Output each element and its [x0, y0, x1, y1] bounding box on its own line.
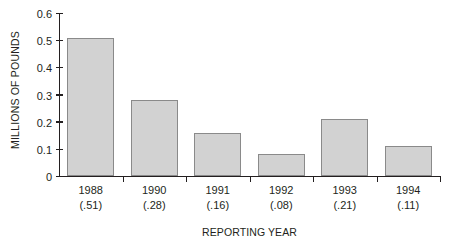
bar [385, 146, 432, 176]
bar [131, 100, 178, 175]
y-axis-tick-mark [56, 176, 64, 177]
y-axis-tick-label: 0.6 [37, 8, 52, 20]
x-axis-tick-mark [313, 176, 314, 182]
category-year: 1991 [186, 183, 250, 198]
category-label: 1991(.16) [186, 183, 250, 213]
bar [258, 154, 305, 176]
category-label: 1993(.21) [313, 183, 377, 213]
category-year: 1994 [377, 183, 441, 198]
category-label: 1988(.51) [59, 183, 123, 213]
category-value: (.51) [59, 198, 123, 213]
category-value: (.16) [186, 198, 250, 213]
category-year: 1993 [313, 183, 377, 198]
category-label: 1990(.28) [123, 183, 187, 213]
bar [321, 119, 368, 176]
y-axis-title-text: MILLIONS OF POUNDS [9, 31, 21, 149]
bar-chart: MILLIONS OF POUNDS 00.10.20.30.40.50.6 1… [0, 0, 455, 248]
y-axis-tick-label: 0.3 [37, 90, 52, 102]
category-year: 1990 [123, 183, 187, 198]
category-value: (.28) [123, 198, 187, 213]
x-axis-title: REPORTING YEAR [59, 226, 440, 238]
category-label: 1992(.08) [250, 183, 314, 213]
y-axis-tick-label: 0.2 [37, 117, 52, 129]
y-axis-tick-label: 0.4 [37, 62, 52, 74]
x-axis-title-text: REPORTING YEAR [202, 226, 297, 238]
y-axis-tick-label: 0.1 [37, 144, 52, 156]
category-value: (.08) [250, 198, 314, 213]
bars-layer [59, 14, 440, 176]
plot-area: 00.10.20.30.40.50.6 [59, 14, 440, 177]
x-axis-category-labels: 1988(.51)1990(.28)1991(.16)1992(.08)1993… [59, 183, 440, 225]
y-axis-title: MILLIONS OF POUNDS [4, 0, 26, 180]
x-axis-tick-mark [377, 176, 378, 182]
y-axis-tick-label: 0.5 [37, 35, 52, 47]
x-axis-tick-mark [250, 176, 251, 182]
category-year: 1992 [250, 183, 314, 198]
x-axis-tick-mark [123, 176, 124, 182]
category-label: 1994(.11) [377, 183, 441, 213]
category-value: (.21) [313, 198, 377, 213]
category-year: 1988 [59, 183, 123, 198]
x-axis-tick-mark [186, 176, 187, 182]
y-axis-tick-label: 0 [46, 171, 52, 183]
bar [194, 133, 241, 176]
bar [67, 38, 114, 175]
category-value: (.11) [377, 198, 441, 213]
x-axis-tick-mark [440, 176, 441, 182]
